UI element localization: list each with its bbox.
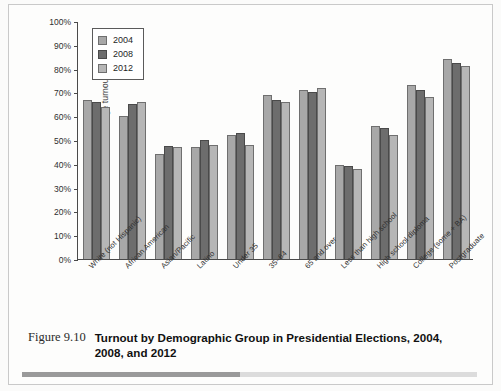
- y-axis-tick-label: 100%: [32, 17, 78, 27]
- bar-group: [258, 22, 294, 259]
- y-axis-tick-label: 70%: [32, 88, 78, 98]
- legend-swatch-2008-icon: [98, 50, 107, 59]
- legend-label: 2004: [113, 35, 133, 45]
- y-axis-tick-label: 0%: [32, 255, 78, 265]
- bar-2012: [137, 102, 146, 259]
- bar-2012: [461, 66, 470, 259]
- bar-2008: [92, 102, 101, 259]
- legend-label: 2008: [113, 49, 133, 59]
- y-axis-tick-label: 30%: [32, 184, 78, 194]
- chart-panel: Percentage turnout 100%90%80%70%60%50%40…: [20, 10, 482, 320]
- bar-2004: [335, 165, 344, 259]
- figure-number: Figure 9.10: [28, 330, 86, 345]
- bar-2004: [227, 135, 236, 259]
- page-root: Percentage turnout 100%90%80%70%60%50%40…: [0, 0, 501, 391]
- x-axis-labels: White (not Hispanic)African AmericanAsia…: [77, 262, 473, 322]
- figure-title: Turnout by Demographic Group in Presiden…: [95, 330, 468, 361]
- bar-2004: [263, 95, 272, 259]
- bar-group: [222, 22, 258, 259]
- decorative-rule-fill: [22, 372, 240, 377]
- y-axis-tick-label: 50%: [32, 136, 78, 146]
- bar-2012: [209, 145, 218, 259]
- chart-legend: 2004 2008 2012: [92, 28, 144, 80]
- legend-label: 2012: [113, 63, 133, 73]
- bar-2008: [344, 166, 353, 259]
- bar-2008: [128, 104, 137, 259]
- bar-2008: [236, 133, 245, 259]
- legend-swatch-2004-icon: [98, 36, 107, 45]
- bar-2008: [308, 92, 317, 259]
- bar-group: [294, 22, 330, 259]
- decorative-rule: [22, 372, 477, 377]
- y-axis-tick-label: 60%: [32, 112, 78, 122]
- bar-group: [330, 22, 366, 259]
- y-axis-tick-label: 90%: [32, 41, 78, 51]
- bar-2012: [317, 88, 326, 259]
- figure-caption: Figure 9.10 Turnout by Demographic Group…: [28, 330, 468, 361]
- bar-2012: [389, 135, 398, 259]
- bar-2008: [200, 140, 209, 259]
- legend-item: 2012: [98, 61, 133, 75]
- bar-2004: [299, 90, 308, 259]
- legend-swatch-2012-icon: [98, 64, 107, 73]
- bar-2012: [101, 107, 110, 259]
- legend-item: 2004: [98, 33, 133, 47]
- bar-2004: [83, 100, 92, 259]
- legend-item: 2008: [98, 47, 133, 61]
- bar-group: [150, 22, 186, 259]
- bar-2012: [425, 97, 434, 259]
- bar-group: [186, 22, 222, 259]
- bar-2008: [272, 100, 281, 259]
- bar-2008: [164, 146, 173, 259]
- bar-2008: [380, 128, 389, 259]
- y-axis-tick-label: 80%: [32, 65, 78, 75]
- y-axis-tick-label: 20%: [32, 207, 78, 217]
- y-axis-tick-label: 40%: [32, 160, 78, 170]
- y-axis-tick-label: 10%: [32, 231, 78, 241]
- bar-2012: [281, 102, 290, 259]
